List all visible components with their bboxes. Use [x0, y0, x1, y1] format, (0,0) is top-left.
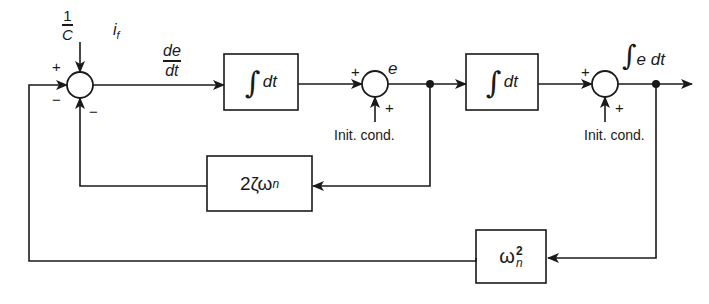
integral-icon: ∫ [486, 65, 502, 100]
integral-icon: ∫ [622, 39, 637, 72]
init-cond-label-1: Init. cond. [334, 128, 395, 142]
integrator-1-label: ∫dt [224, 54, 298, 110]
de-dt-numerator: de [163, 43, 181, 59]
outer-feedback-line [548, 84, 656, 258]
frequency-gain-sub: n [516, 257, 523, 269]
block-diagram-canvas [0, 0, 709, 304]
integral-icon: ∫ [245, 65, 261, 100]
summer-1-sign-plus: + [52, 59, 61, 74]
input-fraction: 1 C [62, 8, 73, 42]
output-text: e dt [637, 50, 665, 69]
damping-gain-sub: n [272, 177, 279, 191]
summer-3-sign-plus-bottom: + [615, 100, 624, 115]
fraction-denominator: C [62, 27, 73, 42]
input-signal-sub: f [117, 29, 120, 41]
de-dt-label: de dt [163, 43, 181, 79]
summer-3 [592, 71, 618, 97]
integrator-2-label: ∫dt [466, 54, 538, 110]
junction-dot-e [426, 80, 434, 88]
summer-2 [362, 71, 388, 97]
integrator-1-text: dt [263, 72, 277, 92]
damping-gain-label: 2ζωn [207, 156, 312, 211]
output-label: ∫e dt [622, 42, 665, 70]
summer-1-sign-minus-bottom: − [89, 104, 98, 119]
frequency-gain-label: ω 2 n [476, 230, 546, 283]
summer-2-sign-plus-bottom: + [385, 100, 394, 115]
fraction-numerator: 1 [63, 8, 71, 23]
summer-3-sign-plus-left: + [581, 64, 590, 79]
integrator-2-text: dt [504, 72, 518, 92]
summer-1-sign-minus-left: − [52, 92, 61, 107]
init-cond-label-2: Init. cond. [584, 128, 645, 142]
input-signal-label: if [113, 22, 120, 41]
inner-feedback-return [80, 98, 207, 186]
summer-2-sign-plus-left: + [351, 64, 360, 79]
e-signal-label: e [388, 60, 397, 77]
de-dt-denominator: dt [165, 63, 178, 79]
frequency-gain-text: ω [499, 245, 515, 268]
junction-dot-output [652, 80, 660, 88]
frequency-gain-sup: 2 [516, 245, 523, 257]
summer-1 [67, 72, 93, 98]
damping-gain-text: 2ζω [240, 173, 273, 195]
input-label: 1 C [62, 8, 73, 42]
